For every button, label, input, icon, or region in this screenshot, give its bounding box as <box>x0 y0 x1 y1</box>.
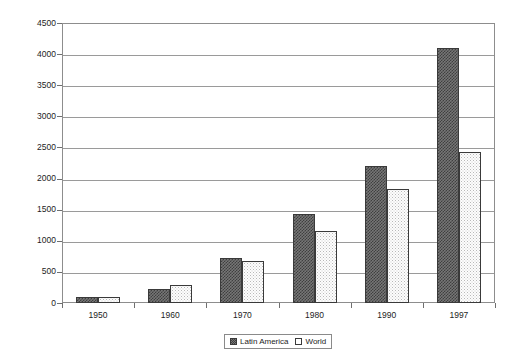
y-tick-label: 3500 <box>0 81 56 90</box>
bar-world-1950 <box>98 297 120 303</box>
x-tick-label-1970: 1970 <box>206 311 278 320</box>
x-tick-mark <box>206 303 207 308</box>
x-tick-label-1997: 1997 <box>423 311 495 320</box>
bar-latin-america-1990 <box>365 166 387 303</box>
x-tick-mark <box>495 303 496 308</box>
bars-layer <box>62 23 495 303</box>
y-tick-label: 2500 <box>0 143 56 152</box>
legend-swatch-latin-icon <box>230 338 237 345</box>
bar-chart: Index (1950=100) 05001000150020002500300… <box>0 0 522 363</box>
y-tick-label: 500 <box>0 267 56 276</box>
x-tick-label-1950: 1950 <box>62 311 134 320</box>
y-tick-label: 3000 <box>0 112 56 121</box>
y-tick-label: 1000 <box>0 236 56 245</box>
legend-entry-world: World <box>295 338 326 346</box>
bar-latin-america-1980 <box>293 214 315 303</box>
legend-label: Latin America <box>240 338 288 346</box>
x-tick-mark <box>423 303 424 308</box>
y-tick-label: 4000 <box>0 50 56 59</box>
bar-world-1990 <box>387 189 409 303</box>
bar-latin-america-1970 <box>220 258 242 303</box>
chart-legend: Latin AmericaWorld <box>224 334 332 349</box>
legend-swatch-world-icon <box>295 338 302 345</box>
bar-latin-america-1997 <box>437 48 459 303</box>
x-tick-mark <box>351 303 352 308</box>
x-tick-mark <box>279 303 280 308</box>
legend-entry-latin-america: Latin America <box>230 338 288 346</box>
bar-world-1997 <box>459 152 481 303</box>
y-tick-label: 1500 <box>0 205 56 214</box>
bar-latin-america-1960 <box>148 289 170 303</box>
bar-world-1980 <box>315 231 337 303</box>
bar-world-1960 <box>170 285 192 303</box>
legend-label: World <box>305 338 326 346</box>
x-tick-label-1990: 1990 <box>351 311 423 320</box>
x-tick-mark <box>134 303 135 308</box>
x-tick-label-1980: 1980 <box>279 311 351 320</box>
y-tick-label: 2000 <box>0 174 56 183</box>
x-tick-mark <box>62 303 63 308</box>
y-tick-label: 0 <box>0 299 56 308</box>
y-tick-label: 4500 <box>0 19 56 28</box>
bar-world-1970 <box>242 261 264 303</box>
bar-latin-america-1950 <box>76 297 98 303</box>
x-tick-label-1960: 1960 <box>134 311 206 320</box>
